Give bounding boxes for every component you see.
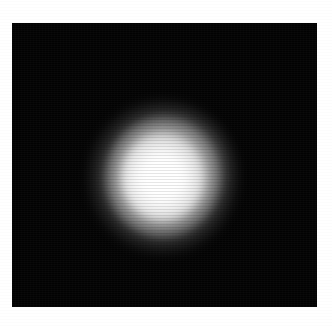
image-plate — [12, 23, 317, 307]
source-saturated-core — [141, 154, 185, 200]
figure-page — [0, 0, 332, 326]
